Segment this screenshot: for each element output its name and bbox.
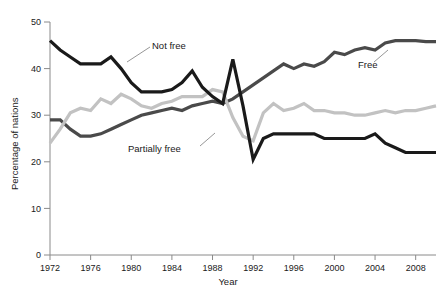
y-tick-labels: 01020304050 bbox=[31, 17, 41, 260]
x-tick-label-2000: 2000 bbox=[324, 263, 344, 273]
x-tick-label-1972: 1972 bbox=[40, 263, 60, 273]
annotation-not-free: Not free bbox=[127, 40, 186, 62]
x-tick-marks bbox=[50, 255, 416, 260]
x-tick-label-1988: 1988 bbox=[203, 263, 223, 273]
y-tick-label-0: 0 bbox=[36, 250, 41, 260]
leader-line-not-free bbox=[127, 47, 150, 62]
y-tick-label-50: 50 bbox=[31, 17, 41, 27]
x-axis-title: Year bbox=[218, 276, 237, 287]
x-tick-label-1996: 1996 bbox=[284, 263, 304, 273]
x-tick-label-2008: 2008 bbox=[406, 263, 426, 273]
annotation-partially-free: Partially free bbox=[128, 133, 215, 154]
line-chart: 01020304050 Percentage of nations 197219… bbox=[0, 0, 440, 306]
x-tick-labels: 1972197619801984198819921996200020042008 bbox=[40, 263, 426, 273]
x-tick-label-1976: 1976 bbox=[81, 263, 101, 273]
x-tick-label-1984: 1984 bbox=[162, 263, 182, 273]
annotation-label-free: Free bbox=[358, 59, 378, 70]
annotation-free: Free bbox=[358, 50, 388, 70]
y-tick-label-30: 30 bbox=[31, 110, 41, 120]
series-line-free bbox=[50, 41, 436, 137]
y-tick-label-20: 20 bbox=[31, 157, 41, 167]
x-tick-label-1980: 1980 bbox=[121, 263, 141, 273]
y-tick-label-10: 10 bbox=[31, 204, 41, 214]
chart-container: 01020304050 Percentage of nations 197219… bbox=[0, 0, 440, 306]
annotation-label-not-free: Not free bbox=[152, 40, 186, 51]
y-tick-label-40: 40 bbox=[31, 64, 41, 74]
y-axis-title: Percentage of nations bbox=[9, 97, 20, 190]
x-axis-group: 1972197619801984198819921996200020042008… bbox=[40, 255, 436, 287]
leader-line-partially-free bbox=[200, 133, 215, 146]
y-axis-group: 01020304050 Percentage of nations bbox=[9, 17, 50, 260]
y-tick-marks bbox=[44, 22, 50, 255]
x-tick-label-2004: 2004 bbox=[365, 263, 385, 273]
x-tick-label-1992: 1992 bbox=[243, 263, 263, 273]
annotation-label-partially-free: Partially free bbox=[128, 143, 181, 154]
